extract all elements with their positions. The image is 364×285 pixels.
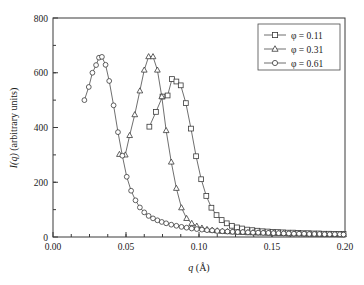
marker-circle — [220, 229, 225, 234]
marker-circle — [327, 232, 332, 237]
x-tick-label: 0.15 — [264, 242, 281, 252]
marker-circle — [215, 229, 220, 234]
figure-container: 0.000.050.100.150.20 0200400600800 q (Å)… — [0, 0, 364, 285]
marker-circle — [240, 230, 245, 235]
y-axis-symbol: I(q) — [8, 153, 20, 170]
marker-square — [189, 126, 194, 131]
marker-circle — [276, 231, 281, 236]
marker-circle — [100, 54, 105, 59]
marker-circle — [82, 98, 87, 103]
y-axis-unit: (arbitrary units) — [8, 88, 20, 154]
marker-circle — [322, 232, 327, 237]
x-axis-unit: (Å) — [193, 262, 209, 274]
marker-square — [272, 32, 277, 37]
marker-square — [147, 124, 152, 129]
legend-label: φ = 0.11 — [291, 31, 323, 41]
marker-square — [183, 101, 188, 106]
marker-circle — [90, 70, 95, 75]
marker-circle — [142, 210, 147, 215]
marker-circle — [312, 232, 317, 237]
marker-circle — [281, 231, 286, 236]
marker-circle — [86, 85, 91, 90]
marker-circle — [169, 222, 174, 227]
marker-square — [224, 221, 229, 226]
marker-circle — [129, 188, 134, 193]
marker-circle — [235, 230, 240, 235]
x-tick-label: 0.00 — [45, 242, 62, 252]
marker-circle — [164, 221, 169, 226]
marker-circle — [210, 228, 215, 233]
marker-square — [229, 223, 234, 228]
marker-circle — [103, 62, 108, 67]
marker-circle — [302, 231, 307, 236]
marker-circle — [307, 232, 312, 237]
x-tick-label: 0.10 — [191, 242, 208, 252]
marker-square — [219, 218, 224, 223]
marker-circle — [317, 232, 322, 237]
x-tick-label: 0.05 — [118, 242, 135, 252]
marker-circle — [120, 153, 125, 158]
marker-circle — [133, 198, 138, 203]
y-tick-label: 800 — [34, 14, 49, 24]
marker-circle — [116, 130, 121, 135]
marker-circle — [94, 63, 99, 68]
y-axis-title: I(q) (arbitrary units) — [8, 88, 20, 170]
marker-circle — [184, 225, 189, 230]
y-tick-label: 600 — [34, 68, 49, 78]
marker-circle — [225, 229, 230, 234]
marker-square — [235, 225, 240, 230]
y-tick-label: 400 — [34, 123, 49, 133]
marker-circle — [261, 230, 266, 235]
marker-circle — [271, 231, 276, 236]
marker-circle — [272, 60, 277, 65]
marker-circle — [341, 232, 346, 237]
marker-circle — [332, 232, 337, 237]
marker-circle — [111, 103, 116, 108]
x-tick-label: 0.20 — [337, 242, 354, 252]
marker-circle — [107, 79, 112, 84]
x-axis-title: q (Å) — [188, 262, 209, 274]
marker-circle — [146, 214, 151, 219]
marker-circle — [189, 226, 194, 231]
marker-square — [165, 93, 170, 98]
marker-circle — [256, 230, 261, 235]
marker-circle — [200, 227, 205, 232]
marker-square — [204, 194, 209, 199]
legend[interactable]: φ = 0.11φ = 0.31φ = 0.61 — [258, 24, 340, 70]
marker-square — [178, 83, 183, 88]
legend-entries[interactable]: φ = 0.11φ = 0.31φ = 0.61 — [264, 31, 323, 69]
marker-circle — [286, 231, 291, 236]
y-tick-label: 0 — [43, 233, 48, 243]
legend-label: φ = 0.61 — [291, 59, 323, 69]
marker-circle — [297, 231, 302, 236]
marker-circle — [266, 230, 271, 235]
marker-square — [214, 213, 219, 218]
marker-circle — [205, 228, 210, 233]
marker-circle — [251, 230, 256, 235]
marker-circle — [137, 205, 142, 210]
marker-circle — [246, 230, 251, 235]
marker-circle — [174, 223, 179, 228]
marker-circle — [179, 224, 184, 229]
marker-square — [154, 109, 159, 114]
marker-circle — [124, 174, 129, 179]
y-tick-label: 200 — [34, 178, 49, 188]
legend-label: φ = 0.31 — [291, 45, 323, 55]
marker-circle — [230, 229, 235, 234]
marker-square — [209, 205, 214, 210]
marker-square — [194, 154, 199, 159]
scattering-intensity-chart: 0.000.050.100.150.20 0200400600800 q (Å)… — [0, 0, 364, 285]
marker-square — [199, 177, 204, 182]
marker-circle — [194, 227, 199, 232]
marker-circle — [292, 231, 297, 236]
